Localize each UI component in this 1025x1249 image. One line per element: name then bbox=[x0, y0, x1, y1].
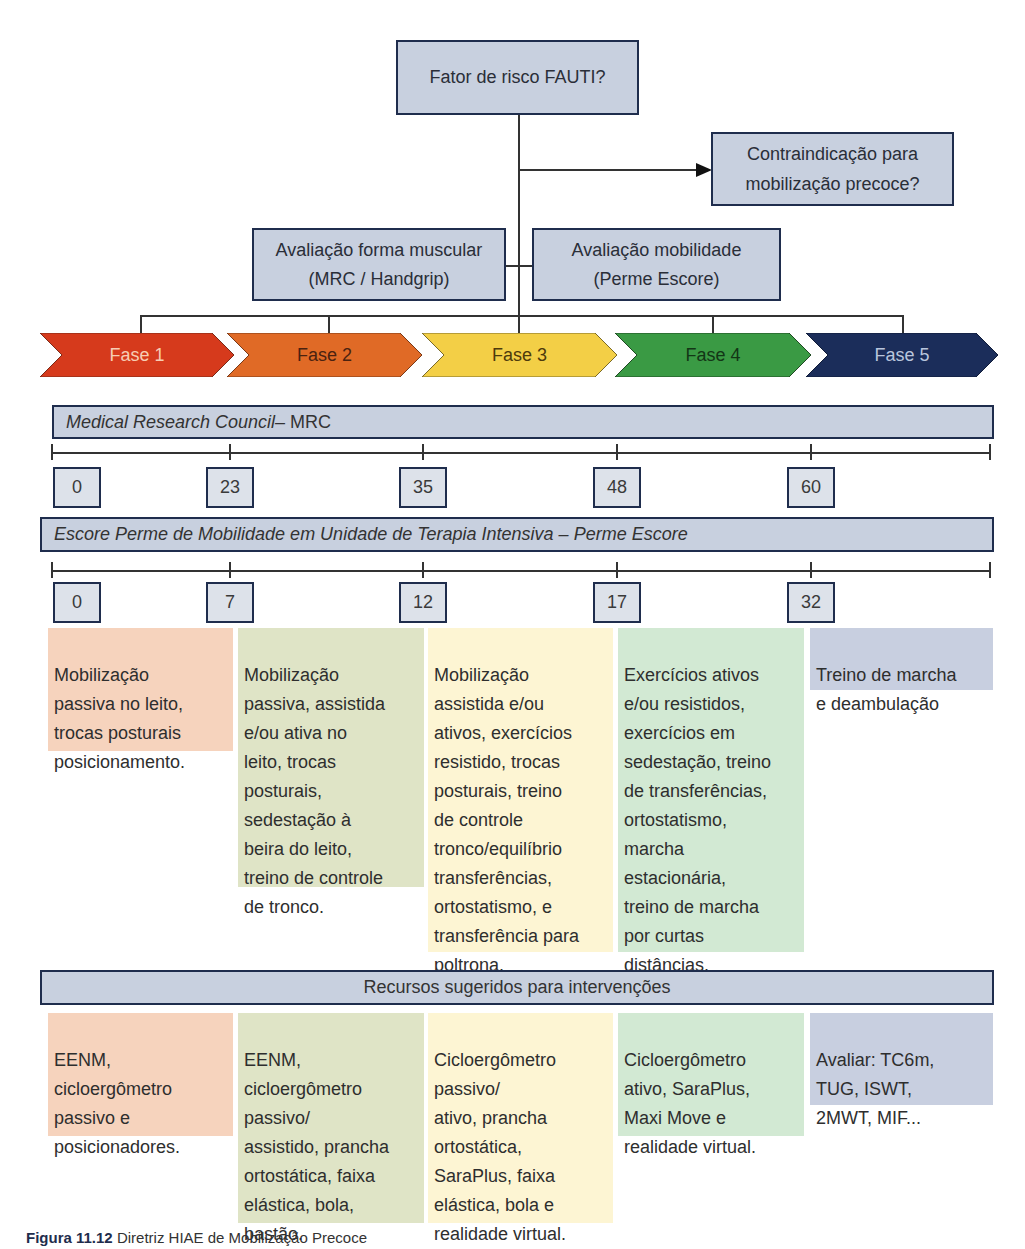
connector-assessment bbox=[506, 265, 532, 267]
figure-caption: Figura 11.12 Diretriz HIAE de Mobilizaçã… bbox=[26, 1229, 367, 1246]
perme-tick bbox=[989, 562, 991, 578]
perme-value: 32 bbox=[801, 592, 821, 613]
phase-5-label: Fase 5 bbox=[874, 345, 929, 366]
perme-value: 17 bbox=[607, 592, 627, 613]
intervention-text: Exercícios ativos e/ou resistidos, exerc… bbox=[624, 665, 771, 975]
intervention-text: Mobilização passiva no leito, trocas pos… bbox=[54, 665, 185, 772]
perme-scale-axis bbox=[51, 570, 991, 572]
muscle-eval-line1: Avaliação forma muscular bbox=[276, 236, 483, 265]
perme-value: 0 bbox=[72, 592, 82, 613]
contraindication-box: Contraindicação para mobilização precoce… bbox=[711, 132, 954, 206]
arrow-right-icon bbox=[696, 163, 712, 177]
mrc-value: 0 bbox=[72, 477, 82, 498]
figure-caption-label: Figura 11.12 bbox=[26, 1229, 113, 1246]
resource-text: Cicloergômetro ativo, SaraPlus, Maxi Mov… bbox=[624, 1050, 756, 1157]
intervention-text: Mobilização assistida e/ou ativos, exerc… bbox=[434, 665, 579, 975]
intervention-phase-1: Mobilização passiva no leito, trocas pos… bbox=[48, 628, 233, 751]
mobility-eval-line1: Avaliação mobilidade bbox=[572, 236, 742, 265]
figure-caption-text: Diretriz HIAE de Mobilização Precoce bbox=[113, 1229, 367, 1246]
intervention-text: Mobilização passiva, assistida e/ou ativ… bbox=[244, 665, 385, 917]
perme-value-box: 7 bbox=[206, 582, 254, 623]
mrc-value-box: 0 bbox=[53, 467, 101, 508]
perme-tick bbox=[229, 562, 231, 578]
perme-title: Escore Perme de Mobilidade em Unidade de… bbox=[54, 524, 688, 545]
resource-text: Avaliar: TC6m, TUG, ISWT, 2MWT, MIF... bbox=[816, 1050, 934, 1128]
connector-phase-4 bbox=[712, 315, 714, 334]
mrc-scale-axis bbox=[51, 452, 991, 454]
mobility-eval-box: Avaliação mobilidade (Perme Escore) bbox=[532, 228, 781, 301]
mrc-tick bbox=[989, 444, 991, 460]
phase-4-label: Fase 4 bbox=[685, 345, 740, 366]
perme-value-box: 0 bbox=[53, 582, 101, 623]
perme-value-box: 17 bbox=[593, 582, 641, 623]
intervention-phase-4: Exercícios ativos e/ou resistidos, exerc… bbox=[618, 628, 804, 952]
mrc-title-suffix: – MRC bbox=[275, 412, 331, 433]
mrc-value: 23 bbox=[220, 477, 240, 498]
perme-tick bbox=[422, 562, 424, 578]
mrc-tick bbox=[229, 444, 231, 460]
mrc-title-bar: Medical Research Council – MRC bbox=[52, 405, 994, 439]
mrc-title-italic: Medical Research Council bbox=[66, 412, 275, 433]
perme-value-box: 32 bbox=[787, 582, 835, 623]
intervention-phase-2: Mobilização passiva, assistida e/ou ativ… bbox=[238, 628, 424, 887]
resource-phase-2: EENM, cicloergômetro passivo/ assistido,… bbox=[238, 1013, 424, 1223]
mrc-value-box: 23 bbox=[206, 467, 254, 508]
phase-3-chevron: Fase 3 bbox=[422, 333, 617, 377]
mrc-value: 35 bbox=[413, 477, 433, 498]
mrc-value: 60 bbox=[801, 477, 821, 498]
phase-1-label: Fase 1 bbox=[109, 345, 164, 366]
mrc-tick bbox=[422, 444, 424, 460]
mrc-value: 48 bbox=[607, 477, 627, 498]
muscle-eval-line2: (MRC / Handgrip) bbox=[308, 265, 449, 294]
resource-text: EENM, cicloergômetro passivo e posiciona… bbox=[54, 1050, 180, 1157]
mrc-value-box: 60 bbox=[787, 467, 835, 508]
phase-1-chevron: Fase 1 bbox=[40, 333, 234, 377]
resource-text: Cicloergômetro passivo/ ativo, prancha o… bbox=[434, 1050, 566, 1244]
mrc-tick bbox=[51, 444, 53, 460]
mrc-value-box: 48 bbox=[593, 467, 641, 508]
resource-text: EENM, cicloergômetro passivo/ assistido,… bbox=[244, 1050, 389, 1244]
perme-value: 12 bbox=[413, 592, 433, 613]
intervention-phase-5: Treino de marcha e deambulação bbox=[810, 628, 993, 690]
resource-phase-5: Avaliar: TC6m, TUG, ISWT, 2MWT, MIF... bbox=[810, 1013, 993, 1105]
phase-4-chevron: Fase 4 bbox=[615, 333, 811, 377]
mrc-tick bbox=[616, 444, 618, 460]
mrc-tick bbox=[810, 444, 812, 460]
contraindication-label: Contraindicação para mobilização precoce… bbox=[745, 139, 919, 199]
connector-phase-horizontal bbox=[140, 315, 903, 317]
perme-title-bar: Escore Perme de Mobilidade em Unidade de… bbox=[40, 517, 994, 552]
perme-value: 7 bbox=[225, 592, 235, 613]
connector-phase-5 bbox=[902, 315, 904, 334]
intervention-text: Treino de marcha e deambulação bbox=[816, 665, 956, 714]
phase-2-chevron: Fase 2 bbox=[227, 333, 422, 377]
resource-phase-4: Cicloergômetro ativo, SaraPlus, Maxi Mov… bbox=[618, 1013, 804, 1136]
perme-value-box: 12 bbox=[399, 582, 447, 623]
resources-title-bar: Recursos sugeridos para intervenções bbox=[40, 970, 994, 1005]
resource-phase-1: EENM, cicloergômetro passivo e posiciona… bbox=[48, 1013, 233, 1136]
fauti-risk-box: Fator de risco FAUTI? bbox=[396, 40, 639, 115]
perme-tick bbox=[51, 562, 53, 578]
perme-tick bbox=[810, 562, 812, 578]
resource-phase-3: Cicloergômetro passivo/ ativo, prancha o… bbox=[428, 1013, 613, 1223]
muscle-eval-box: Avaliação forma muscular (MRC / Handgrip… bbox=[252, 228, 506, 301]
resources-title: Recursos sugeridos para intervenções bbox=[363, 977, 670, 998]
connector-to-contraindication bbox=[519, 169, 699, 171]
mrc-value-box: 35 bbox=[399, 467, 447, 508]
perme-tick bbox=[616, 562, 618, 578]
connector-phase-2 bbox=[328, 315, 330, 334]
fauti-risk-label: Fator de risco FAUTI? bbox=[429, 64, 605, 91]
intervention-phase-3: Mobilização assistida e/ou ativos, exerc… bbox=[428, 628, 613, 952]
phase-5-chevron: Fase 5 bbox=[806, 333, 998, 377]
phase-2-label: Fase 2 bbox=[297, 345, 352, 366]
connector-vertical-main bbox=[518, 115, 520, 334]
phase-3-label: Fase 3 bbox=[492, 345, 547, 366]
mobility-eval-line2: (Perme Escore) bbox=[593, 265, 719, 294]
connector-phase-1 bbox=[140, 315, 142, 334]
